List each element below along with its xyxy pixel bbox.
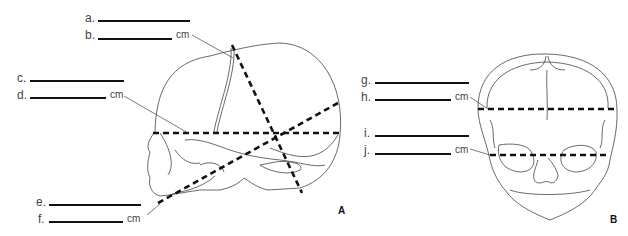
- blank-b[interactable]: [98, 38, 172, 40]
- blank-i[interactable]: [375, 135, 469, 137]
- label-b: b.: [85, 29, 95, 41]
- label-e: e.: [36, 196, 46, 208]
- blank-a[interactable]: [98, 20, 190, 22]
- label-d: d.: [17, 89, 27, 101]
- frontal-measurement-lines: [478, 109, 618, 155]
- lateral-skull-outline: [148, 43, 341, 196]
- label-h: h.: [361, 91, 371, 103]
- label-g: g.: [361, 74, 371, 86]
- label-a: a.: [85, 12, 95, 24]
- blank-d[interactable]: [30, 97, 106, 99]
- blank-f[interactable]: [49, 221, 123, 223]
- leader-lines-a: [124, 35, 233, 215]
- blank-g[interactable]: [375, 82, 469, 84]
- figure-label-a: A: [338, 205, 345, 216]
- label-j: j.: [364, 144, 370, 156]
- skull-measurement-diagram: a. b. cm c. d. cm e. f. cm A g. h. cm i.…: [0, 0, 628, 236]
- blank-c[interactable]: [30, 80, 124, 82]
- frontal-skull-outline: [478, 54, 617, 220]
- unit-j: cm: [455, 145, 468, 155]
- blank-e[interactable]: [49, 204, 141, 206]
- label-c: c.: [17, 72, 26, 84]
- label-f: f.: [38, 213, 45, 225]
- unit-f: cm: [127, 214, 140, 224]
- blank-j[interactable]: [375, 153, 451, 155]
- unit-b: cm: [176, 30, 189, 40]
- blank-h[interactable]: [375, 99, 451, 101]
- figure-label-b: B: [610, 214, 617, 225]
- unit-h: cm: [455, 92, 468, 102]
- unit-d: cm: [110, 90, 123, 100]
- label-i: i.: [364, 127, 370, 139]
